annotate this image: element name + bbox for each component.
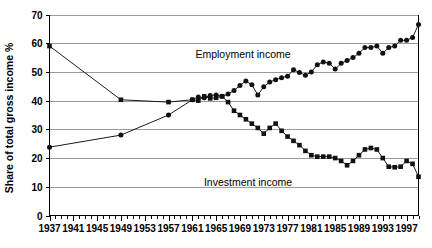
data-point-marker-square [190,97,195,102]
data-point-marker-square [279,128,284,133]
data-point-marker-square [327,154,332,159]
data-point-marker-square [238,113,243,118]
data-point-marker-circle [351,55,356,60]
data-point-marker-circle [261,84,266,89]
data-point-marker-square [416,174,421,179]
data-point-marker-circle [339,61,344,66]
data-point-marker-circle [232,88,237,93]
x-tick-label: 1997 [395,223,418,234]
x-tick-label: 1937 [38,223,61,234]
y-tick-label: 40 [31,96,43,107]
data-point-marker-circle [226,92,231,97]
x-tick-label: 1957 [157,223,180,234]
investment-income-label: Investment income [204,176,292,188]
data-point-marker-square [250,121,255,126]
data-point-marker-circle [285,74,290,79]
data-point-marker-square [410,162,415,167]
data-point-marker-square [285,134,290,139]
data-point-marker-square [375,147,380,152]
data-point-marker-square [291,139,296,144]
x-tick-label: 1985 [324,223,347,234]
data-point-marker-square [202,94,207,99]
x-tick-label: 1973 [253,223,276,234]
chart-background [0,0,432,248]
x-tick-label: 1949 [110,223,133,234]
data-point-marker-circle [303,73,308,78]
data-point-marker-square [232,108,237,113]
data-point-marker-circle [321,59,326,64]
data-point-marker-square [380,156,385,161]
data-point-marker-circle [374,44,379,49]
data-point-marker-circle [392,44,397,49]
data-point-marker-square [339,159,344,164]
data-point-marker-square [392,165,397,170]
data-point-marker-square [47,44,52,49]
x-tick-label: 1961 [181,223,204,234]
data-point-marker-square [309,153,314,158]
data-point-marker-circle [398,38,403,43]
data-point-marker-circle [386,45,391,50]
data-point-marker-square [196,98,201,103]
data-point-marker-circle [237,83,242,88]
data-point-marker-circle [273,77,278,82]
data-point-marker-circle [356,51,361,56]
data-point-marker-square [208,96,213,101]
x-tick-label: 1977 [276,223,299,234]
x-tick-label: 1981 [300,223,323,234]
data-point-marker-square [256,126,261,131]
data-point-marker-circle [243,79,248,84]
data-point-marker-circle [345,58,350,63]
data-point-marker-square [398,164,403,169]
data-point-marker-square [321,154,326,159]
data-point-marker-circle [333,67,338,72]
y-tick-label: 70 [31,10,43,21]
y-tick-label: 60 [31,38,43,49]
data-point-marker-circle [315,62,320,67]
y-tick-label: 20 [31,153,43,164]
x-tick-label: 1989 [348,223,371,234]
data-point-marker-circle [416,22,421,27]
chart-container: 010203040506070 193719411945194919531957… [0,0,432,248]
data-point-marker-square [369,146,374,151]
data-point-marker-square [267,126,272,131]
data-point-marker-square [226,100,231,105]
data-point-marker-square [333,156,338,161]
data-point-marker-square [315,154,320,159]
data-point-marker-square [119,97,124,102]
y-axis-title: Share of total gross income % [3,42,15,193]
data-point-marker-square [214,95,219,100]
x-tick-label: 1941 [62,223,85,234]
data-point-marker-square [345,163,350,168]
data-point-marker-circle [291,67,296,72]
data-point-marker-square [404,159,409,164]
data-point-marker-square [351,159,356,164]
line-chart: 010203040506070 193719411945194919531957… [0,0,432,248]
data-point-marker-circle [410,35,415,40]
x-tick-label: 1969 [229,223,252,234]
data-point-marker-square [244,117,249,122]
data-point-marker-square [261,131,266,136]
y-tick-label: 0 [37,211,43,222]
data-point-marker-circle [267,79,272,84]
y-tick-label: 30 [31,124,43,135]
data-point-marker-circle [309,69,314,74]
data-point-marker-circle [249,82,254,87]
data-point-marker-circle [327,61,332,66]
y-tick-label: 10 [31,182,43,193]
data-point-marker-circle [166,113,171,118]
data-point-marker-square [386,164,391,169]
x-tick-label: 1953 [134,223,157,234]
data-point-marker-circle [297,70,302,75]
data-point-marker-square [303,149,308,154]
employment-income-label: Employment income [195,48,290,60]
y-tick-label: 50 [31,67,43,78]
data-point-marker-circle [362,45,367,50]
x-tick-label: 1945 [86,223,109,234]
data-point-marker-circle [404,38,409,43]
data-point-marker-circle [255,92,260,97]
data-point-marker-circle [368,45,373,50]
x-tick-label: 1965 [205,223,228,234]
data-point-marker-square [273,121,278,126]
data-point-marker-square [363,147,368,152]
data-point-marker-circle [380,51,385,56]
